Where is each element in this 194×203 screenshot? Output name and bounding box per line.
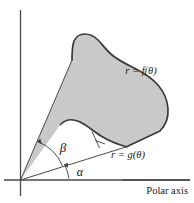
polar-figure-canvas: r = f(θ) r = g(θ) β α Polar axis xyxy=(0,0,194,203)
angle-beta-label: β xyxy=(59,140,67,155)
angle-alpha-label: α xyxy=(77,165,84,179)
inner-curve-label: r = g(θ) xyxy=(111,149,145,161)
outer-curve-label: r = f(θ) xyxy=(125,65,157,77)
polar-region-figure: r = f(θ) r = g(θ) β α Polar axis xyxy=(0,0,194,203)
shaded-region-path xyxy=(21,34,169,180)
polar-axis-label: Polar axis xyxy=(146,185,188,196)
